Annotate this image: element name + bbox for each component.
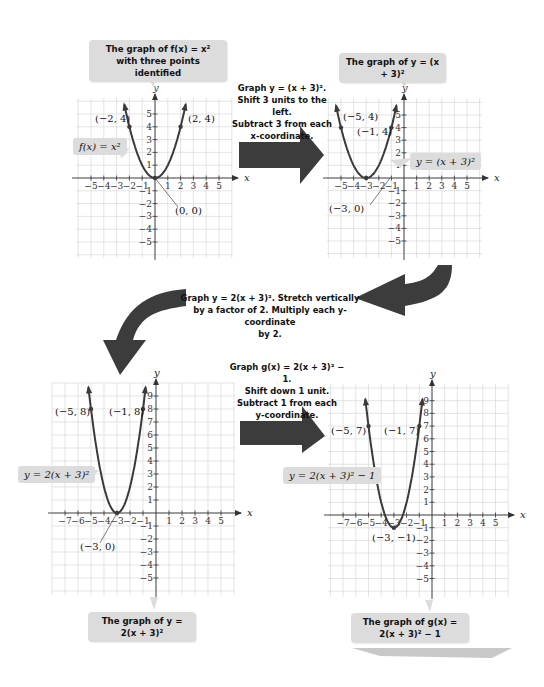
y-tick-label: 1 — [423, 497, 429, 507]
equation-label-graph-1: f(x) = x² — [73, 138, 127, 155]
x-tick-label: 2 — [178, 181, 184, 191]
caption-graph-1: The graph of f(x) = x² with three points… — [89, 40, 227, 82]
y-tick-label: 7 — [147, 417, 153, 427]
y-tick-label: 8 — [423, 408, 429, 418]
equation-label-graph-4: y = 2(x + 3)² − 1 — [283, 467, 381, 484]
curved-arrow-left-icon — [103, 289, 186, 375]
curve-arrowhead-icon — [181, 102, 187, 111]
y-tick-label: −4 — [139, 224, 153, 234]
point-label: (−5, 4) — [343, 111, 378, 122]
caption-line: The graph of y = (x + 3)² — [346, 57, 439, 79]
x-axis-label: x — [494, 172, 500, 183]
step-1-text: Graph y = (x + 3)². Shift 3 units to the… — [228, 82, 336, 142]
step-line: by a factor of 2. Multiply each y-coordi… — [180, 304, 360, 328]
y-tick-label: 5 — [146, 109, 152, 119]
y-tick-label: 6 — [147, 430, 153, 440]
y-tick-label: −4 — [416, 561, 430, 571]
x-tick-label: −5 — [84, 516, 98, 526]
x-tick-label: 4 — [203, 181, 209, 191]
x-tick-label: 3 — [192, 516, 198, 526]
caption-line: The graph of y = 2(x + 3)² — [102, 616, 183, 638]
x-tick-label: 3 — [191, 181, 197, 191]
y-tick-label: 2 — [146, 147, 152, 157]
graph-f-x-squared: xy−5−4−3−2−11234554321−1−2−3−4−5 — [72, 82, 250, 260]
x-tick-label: 4 — [205, 516, 211, 526]
step-line: y-coordinate. — [227, 409, 347, 421]
x-tick-label: −2 — [372, 181, 385, 191]
y-tick-label: −1 — [416, 523, 429, 533]
step-line: Subtract 3 from each — [228, 118, 336, 130]
x-tick-label: 1 — [165, 181, 171, 191]
y-tick-label: −2 — [140, 534, 153, 544]
plotted-point — [178, 125, 182, 129]
caption-line: with three points identified — [95, 55, 221, 79]
y-tick-label: 2 — [395, 148, 401, 158]
x-tick-label: 1 — [442, 518, 448, 528]
curve-arrowhead-icon — [363, 397, 369, 406]
x-tick-label: 5 — [493, 518, 499, 528]
y-tick-label: −2 — [388, 198, 401, 208]
x-tick-label: 2 — [179, 516, 185, 526]
x-tick-label: −5 — [362, 518, 376, 528]
y-tick-label: −3 — [139, 211, 153, 221]
y-tick-label: −4 — [140, 560, 154, 570]
curve-arrowhead-icon — [392, 103, 398, 112]
caption-graph-3: The graph of y = 2(x + 3)² — [88, 612, 196, 642]
y-tick-label: 4 — [147, 456, 153, 466]
x-tick-label: −6 — [349, 518, 363, 528]
x-tick-label: −3 — [110, 181, 124, 191]
step-line: by 2. — [180, 328, 360, 340]
caption-graph-4: The graph of g(x) = 2(x + 3)² − 1 — [351, 613, 469, 643]
x-axis-label: x — [244, 172, 250, 183]
x-axis-label: x — [520, 509, 526, 520]
y-tick-label: −4 — [388, 223, 402, 233]
y-tick-label: 4 — [146, 122, 152, 132]
x-tick-label: −4 — [347, 181, 361, 191]
point-label: (−3, −1) — [372, 532, 416, 543]
y-tick-label: −1 — [140, 521, 153, 531]
y-tick-label: 6 — [423, 434, 429, 444]
y-tick-label: −1 — [139, 186, 152, 196]
plotted-point — [127, 125, 131, 129]
curve-arrowhead-icon — [123, 102, 129, 111]
y-tick-label: 3 — [395, 135, 401, 145]
x-tick-label: −2 — [123, 181, 136, 191]
x-tick-label: 2 — [455, 518, 461, 528]
caption-graph-2: The graph of y = (x + 3)² — [339, 53, 446, 83]
step-2-text: Graph y = 2(x + 3)². Stretch vertically … — [180, 292, 360, 340]
caption-line: The graph of f(x) = x² — [95, 43, 221, 55]
y-tick-label: 1 — [147, 495, 153, 505]
y-tick-label: −3 — [416, 548, 430, 558]
x-tick-label: 1 — [166, 516, 172, 526]
y-tick-label: 5 — [423, 447, 429, 457]
point-label: (−5, 8) — [55, 406, 90, 417]
point-label: (−3, 0) — [80, 541, 115, 552]
y-tick-label: −5 — [388, 236, 402, 246]
x-tick-label: −4 — [97, 181, 111, 191]
y-tick-label: −2 — [139, 199, 152, 209]
x-tick-label: 5 — [464, 181, 470, 191]
step-line: Shift 3 units to the left. — [228, 94, 336, 118]
x-tick-label: −4 — [97, 516, 111, 526]
x-tick-label: −5 — [84, 181, 98, 191]
point-label: (2, 4) — [188, 113, 215, 124]
y-tick-label: 1 — [146, 160, 152, 170]
point-label: (−3, 0) — [329, 203, 364, 214]
x-tick-label: −2 — [123, 516, 136, 526]
step-line: Graph y = (x + 3)². — [228, 82, 336, 94]
plotted-point — [366, 424, 370, 428]
point-label: (−5, 7) — [331, 425, 366, 436]
y-tick-label: 4 — [395, 123, 401, 133]
step-line: Shift down 1 unit. — [227, 385, 347, 397]
y-tick-label: 3 — [146, 135, 152, 145]
x-axis-label: x — [247, 507, 253, 518]
x-tick-label: 4 — [452, 181, 458, 191]
point-label: (−1, 4) — [357, 126, 392, 137]
y-tick-label: −5 — [416, 574, 430, 584]
x-tick-label: −5 — [334, 181, 348, 191]
step-line: Graph g(x) = 2(x + 3)² − 1. — [227, 361, 347, 385]
y-tick-label: 3 — [147, 469, 153, 479]
curved-arrow-right-icon — [355, 265, 452, 316]
plotted-point — [364, 176, 368, 180]
page-decoration-bar — [352, 648, 512, 658]
